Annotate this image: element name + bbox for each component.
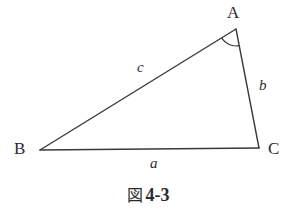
figure-caption-kanji: 図 bbox=[127, 186, 143, 205]
vertex-label-b: B bbox=[14, 140, 25, 157]
triangle-side-c-line bbox=[40, 29, 236, 150]
vertex-label-c: C bbox=[268, 140, 279, 157]
side-label-c: c bbox=[137, 60, 144, 75]
angle-arc-at-vertex-a bbox=[222, 38, 240, 46]
triangle-side-b-line bbox=[236, 29, 259, 148]
vertex-label-a: A bbox=[227, 4, 239, 21]
figure-caption-number: 4-3 bbox=[146, 185, 170, 205]
triangle-side-a-line bbox=[40, 148, 259, 150]
side-label-b: b bbox=[259, 78, 267, 93]
side-label-a: a bbox=[150, 156, 158, 171]
figure-diagram-panel: A B C a b c 図4-3 bbox=[0, 0, 296, 215]
triangle-drawing bbox=[0, 0, 296, 215]
figure-caption: 図4-3 bbox=[0, 185, 296, 207]
